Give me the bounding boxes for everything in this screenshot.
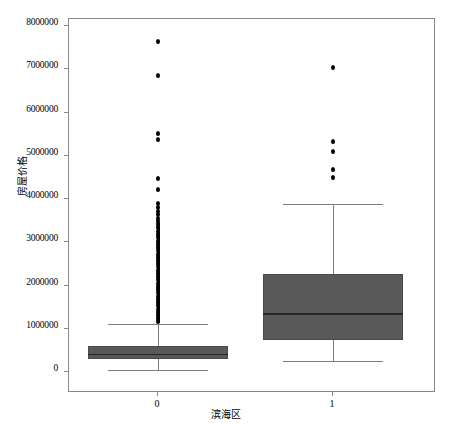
whisker-cap-lower bbox=[108, 370, 209, 371]
median-line-1 bbox=[263, 313, 403, 315]
y-axis-tick-label: 8000000 bbox=[26, 17, 58, 27]
outlier-point bbox=[331, 139, 335, 144]
outlier-point bbox=[156, 137, 160, 142]
outlier-point bbox=[156, 131, 160, 136]
box-1 bbox=[263, 274, 403, 340]
x-axis-title: 滨海区 bbox=[0, 406, 451, 421]
x-axis-tick-mark bbox=[332, 392, 333, 396]
y-axis-tick-label: 3000000 bbox=[26, 233, 58, 243]
whisker-lower bbox=[158, 359, 159, 370]
y-axis-tick-label: 5000000 bbox=[26, 147, 58, 157]
boxplot-chart: 房屋价格 01000000200000030000004000000500000… bbox=[0, 0, 451, 429]
outlier-point bbox=[156, 176, 160, 181]
y-axis-tick-label: 2000000 bbox=[26, 277, 58, 287]
x-axis-tick-mark bbox=[157, 392, 158, 396]
box-0 bbox=[88, 346, 228, 359]
median-line-0 bbox=[88, 354, 228, 356]
y-axis-tick-label: 0 bbox=[53, 363, 58, 373]
outlier-point bbox=[331, 167, 335, 172]
y-axis-tick-label: 4000000 bbox=[26, 190, 58, 200]
outlier-point bbox=[156, 187, 160, 192]
whisker-lower bbox=[333, 340, 334, 361]
whisker-upper bbox=[158, 324, 159, 346]
whisker-upper bbox=[333, 204, 334, 274]
outlier-point bbox=[156, 39, 160, 44]
y-axis-tick-label: 1000000 bbox=[26, 320, 58, 330]
plot-area bbox=[68, 18, 435, 392]
outlier-point bbox=[331, 149, 335, 154]
whisker-cap-lower bbox=[283, 361, 384, 362]
y-axis-tick-label: 7000000 bbox=[26, 60, 58, 70]
outlier-point bbox=[331, 175, 335, 180]
outlier-point bbox=[156, 73, 160, 78]
y-axis-tick-label: 6000000 bbox=[26, 104, 58, 114]
whisker-cap-upper bbox=[283, 204, 384, 205]
outlier-point bbox=[331, 65, 335, 70]
